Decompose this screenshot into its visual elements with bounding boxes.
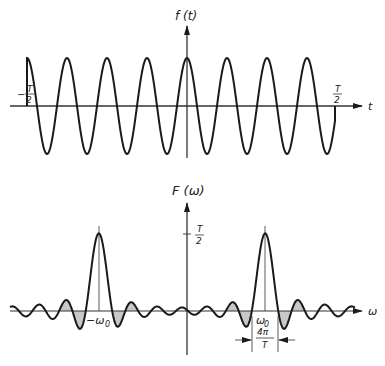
spectrum-curve <box>10 233 355 329</box>
svg-text:T: T <box>197 224 204 234</box>
f-axis-label: f (t) <box>175 9 197 23</box>
svg-text:0: 0 <box>105 320 110 329</box>
neg-w0-label: −ω 0 <box>86 314 110 329</box>
svg-text:T: T <box>262 340 269 350</box>
svg-text:2: 2 <box>334 95 340 105</box>
frequency-domain-plot: F (ω) ω T 2 −ω 0 ω 0 4π T <box>10 183 377 355</box>
svg-text:−ω: −ω <box>86 314 104 327</box>
svg-text:T: T <box>335 84 342 94</box>
t-axis-label: t <box>368 100 373 113</box>
neg-half-T-label: − T 2 <box>17 84 34 105</box>
svg-text:T: T <box>27 84 34 94</box>
figure: f (t) t − T 2 T 2 F (ω) ω T 2 −ω <box>0 0 385 366</box>
svg-text:−: − <box>17 89 25 100</box>
time-domain-plot: f (t) t − T 2 T 2 <box>10 9 373 158</box>
svg-text:2: 2 <box>196 236 202 246</box>
svg-text:4π: 4π <box>257 327 269 337</box>
T-half-label: T 2 <box>195 224 204 246</box>
half-T-label: T 2 <box>333 84 342 105</box>
svg-text:2: 2 <box>26 95 32 105</box>
omega-axis-label: ω <box>368 305 377 318</box>
F-axis-label: F (ω) <box>172 183 205 198</box>
